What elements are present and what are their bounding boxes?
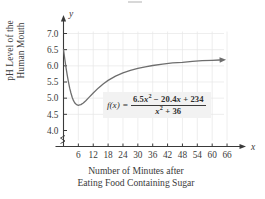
x-tick-label-48: 48 [178,150,188,160]
y-axis-label: pH Level of the Human Mouth [5,0,26,111]
x-tick-label-36: 36 [148,150,158,160]
y-tick-label-6.5: 6.5 [47,45,59,55]
formula-denominator: x2 + 36 [153,106,183,116]
x-axis-symbol: x [250,142,256,152]
data-curve-arrowhead [219,57,226,62]
x-tick-label-6: 6 [76,150,81,160]
x-tick-label-60: 60 [208,150,218,160]
figure-container: 6121824303642485460664.04.55.05.56.06.57… [0,0,265,199]
x-tick-label-66: 66 [222,150,232,160]
y-tick-label-5.5: 5.5 [47,77,59,87]
formula-numerator: 6.5x2 − 20.4x + 234 [131,95,206,105]
y-tick-label-4.0: 4.0 [47,126,59,136]
y-axis-break-symbol [61,136,66,144]
x-axis-arrowhead [240,144,247,149]
y-axis-symbol: y [68,9,74,19]
y-tick-label-5.0: 5.0 [47,93,59,103]
y-axis-label-line-1: pH Level of the [5,0,16,111]
x-tick-label-42: 42 [163,150,173,160]
y-axis-label-line-2: Human Mouth [15,0,26,111]
y-tick-label-6.0: 6.0 [47,61,59,71]
y-tick-label-7.0: 7.0 [47,29,59,39]
x-tick-label-54: 54 [193,150,203,160]
axis-symbols-group: yx [68,9,256,152]
x-tick-label-18: 18 [103,150,113,160]
y-tick-label-4.5: 4.5 [47,110,59,120]
ticks-group [64,34,228,147]
formula-annotation: f(x) = 6.5x2 − 20.4x + 234 x2 + 36 [103,92,211,118]
x-tick-label-12: 12 [89,150,99,160]
formula-fraction: 6.5x2 − 20.4x + 234 x2 + 36 [131,95,206,115]
formula-function-label: f(x) [107,100,120,110]
x-axis-label-line-1: Number of Minutes after [38,165,234,177]
x-axis-label: Number of Minutes after Eating Food Cont… [38,165,234,188]
gridlines-group [66,32,228,141]
y-axis-arrowhead [61,15,66,22]
x-tick-label-24: 24 [118,150,128,160]
x-tick-label-30: 30 [133,150,143,160]
x-axis-label-line-2: Eating Food Containing Sugar [38,177,234,189]
formula-equals-sign: = [123,100,128,110]
